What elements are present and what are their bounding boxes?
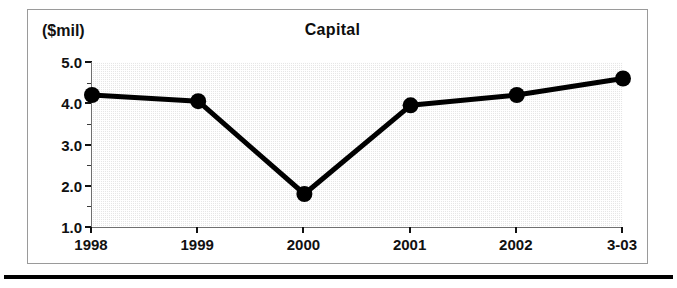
x-tick — [515, 227, 517, 233]
x-tick — [302, 227, 304, 233]
x-tick-label: 3-03 — [607, 236, 637, 253]
data-point-marker — [615, 71, 631, 87]
chart-title-text: Capital — [305, 21, 360, 38]
x-tick — [90, 227, 92, 233]
x-tick-label: 2001 — [393, 236, 426, 253]
data-point-marker — [84, 87, 100, 103]
y-axis-tick-labels: 5.04.03.02.01.0 — [36, 62, 82, 227]
y-tick-label: 1.0 — [36, 219, 82, 236]
y-tick-label: 4.0 — [36, 95, 82, 112]
data-point-marker — [296, 186, 312, 202]
data-point-marker — [190, 93, 206, 109]
x-axis-tick-labels: 199819992000200120023-03 — [91, 236, 622, 258]
y-tick-label: 5.0 — [36, 54, 82, 71]
x-tick-label: 1999 — [181, 236, 214, 253]
x-tick-label: 2002 — [499, 236, 532, 253]
series-plot — [92, 62, 623, 227]
x-tick — [196, 227, 198, 233]
data-point-marker — [403, 97, 419, 113]
x-tick — [621, 227, 623, 233]
x-tick — [409, 227, 411, 233]
x-tick-label: 2000 — [287, 236, 320, 253]
bottom-divider-rule — [4, 275, 673, 279]
y-tick-label: 3.0 — [36, 136, 82, 153]
plot-area — [91, 62, 623, 228]
x-tick-label: 1998 — [74, 236, 107, 253]
data-point-marker — [509, 87, 525, 103]
x-axis-ticks — [91, 227, 622, 234]
capital-line — [92, 79, 623, 195]
y-tick-label: 2.0 — [36, 177, 82, 194]
chart-title: Capital — [0, 21, 677, 39]
chart-figure: ($mil) Capital 5.04.03.02.01.0 199819992… — [0, 0, 677, 288]
